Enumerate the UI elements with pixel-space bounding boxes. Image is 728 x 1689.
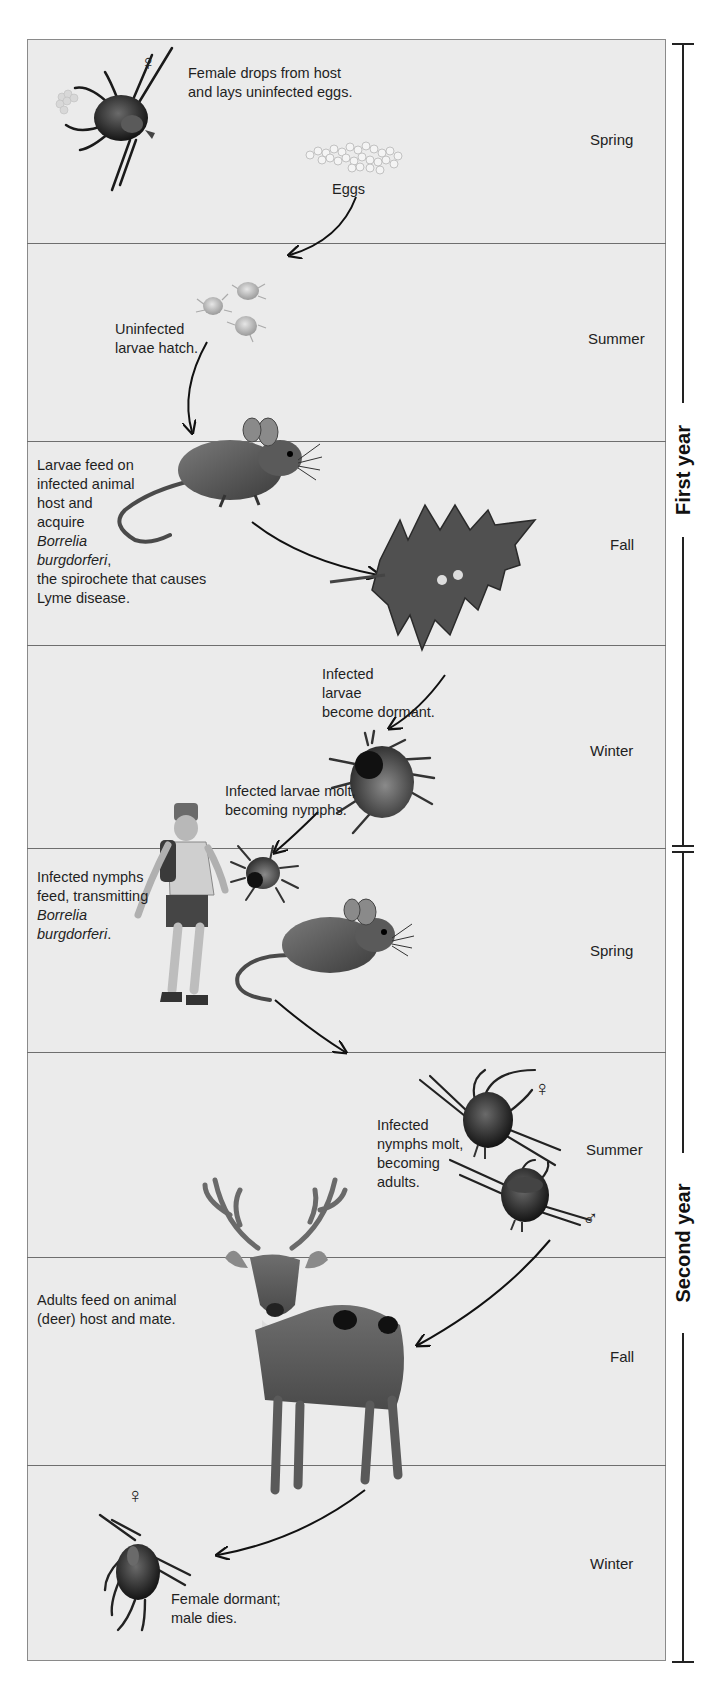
bracket-first-year-lower bbox=[682, 537, 684, 846]
season-label-winter-1: Winter bbox=[590, 742, 633, 759]
season-label-fall-1: Fall bbox=[610, 536, 634, 553]
divider-fall-winter-2 bbox=[27, 1465, 666, 1466]
female-symbol-icon: ♀ bbox=[534, 1078, 551, 1100]
season-label-spring-2: Spring bbox=[590, 942, 633, 959]
caption-nymphs-molt: Infected nymphs molt, becoming adults. bbox=[377, 1116, 463, 1192]
divider-summer-fall-2 bbox=[27, 1257, 666, 1258]
season-label-summer-2: Summer bbox=[586, 1141, 643, 1158]
divider-spring-summer-2 bbox=[27, 1052, 666, 1053]
caption-larvae-hatch: Uninfected larvae hatch. bbox=[115, 320, 198, 358]
bracket-second-year-lower bbox=[682, 1333, 684, 1663]
caption-adults-feed: Adults feed on animal (deer) host and ma… bbox=[37, 1291, 176, 1329]
bracket-first-year-upper bbox=[682, 43, 684, 403]
season-label-fall-2: Fall bbox=[610, 1348, 634, 1365]
season-label-spring-1: Spring bbox=[590, 131, 633, 148]
bracket-bottom-cap bbox=[672, 1661, 694, 1663]
caption-larvae-feed: Larvae feed on infected animal host and … bbox=[37, 456, 206, 608]
caption-eggs: Eggs bbox=[332, 180, 365, 199]
divider-fall-winter-1 bbox=[27, 645, 666, 646]
caption-larvae-molt: Infected larvae molt, becoming nymphs. bbox=[225, 782, 356, 820]
season-label-summer-1: Summer bbox=[588, 330, 645, 347]
caption-female-drops: Female drops from host and lays uninfect… bbox=[188, 64, 352, 102]
year-separator-mark bbox=[672, 845, 694, 847]
caption-larvae-dormant: Infected larvae become dormant. bbox=[322, 665, 435, 722]
year-label-first: First year bbox=[672, 425, 695, 515]
female-symbol-icon: ♀ bbox=[140, 52, 157, 74]
divider-year-boundary bbox=[27, 848, 666, 849]
divider-summer-fall-1 bbox=[27, 441, 666, 442]
lifecycle-panel bbox=[27, 39, 666, 1661]
caption-nymphs-feed: Infected nymphs feed, transmitting Borre… bbox=[37, 868, 148, 944]
female-symbol-icon: ♀ bbox=[127, 1485, 144, 1507]
male-symbol-icon: ♂ bbox=[582, 1208, 599, 1230]
divider-spring-summer-1 bbox=[27, 243, 666, 244]
caption-female-dormant: Female dormant; male dies. bbox=[171, 1590, 281, 1628]
year-label-second: Second year bbox=[672, 1184, 695, 1303]
bracket-second-year-upper bbox=[682, 853, 684, 1153]
season-label-winter-2: Winter bbox=[590, 1555, 633, 1572]
